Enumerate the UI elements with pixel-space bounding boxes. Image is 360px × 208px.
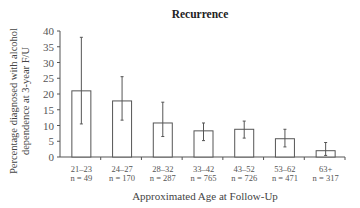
y-tick-label: 0 xyxy=(49,151,55,163)
y-tick-label: 25 xyxy=(43,72,55,84)
bar-chart-plot: 051015202530354021–23n = 4924–27n = 1702… xyxy=(0,0,360,208)
y-tick-label: 20 xyxy=(43,88,55,100)
sample-size-label: n = 49 xyxy=(70,173,92,183)
y-tick-label: 10 xyxy=(43,120,55,132)
sample-size-label: n = 726 xyxy=(231,173,257,183)
sample-size-label: n = 471 xyxy=(272,173,298,183)
y-tick-label: 15 xyxy=(43,104,55,116)
sample-size-label: n = 170 xyxy=(109,173,135,183)
y-tick-label: 40 xyxy=(43,25,55,37)
y-tick-label: 5 xyxy=(49,135,55,147)
y-tick-label: 30 xyxy=(43,57,55,69)
y-tick-label: 35 xyxy=(43,41,55,53)
sample-size-label: n = 287 xyxy=(150,173,176,183)
sample-size-label: n = 317 xyxy=(313,173,339,183)
sample-size-label: n = 765 xyxy=(190,173,216,183)
